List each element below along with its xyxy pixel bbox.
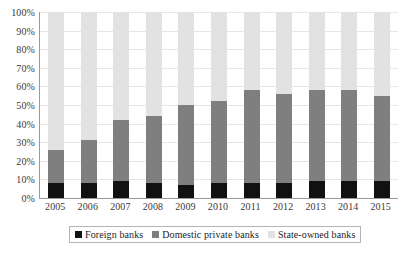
bar-segment <box>276 183 292 198</box>
bar-2011 <box>244 12 260 198</box>
bar-segment <box>341 12 357 90</box>
bar-segment <box>374 12 390 96</box>
legend-swatch-icon <box>75 231 82 238</box>
legend-item: State-owned banks <box>268 229 356 240</box>
bar-segment <box>146 183 162 198</box>
bar-segment <box>178 12 194 105</box>
bar-2007 <box>113 12 129 198</box>
chart-legend: Foreign banksDomestic private banksState… <box>69 226 361 243</box>
x-tick-label: 2005 <box>45 201 65 212</box>
bar-2010 <box>211 12 227 198</box>
bar-segment <box>211 101 227 183</box>
bar-segment <box>146 12 162 116</box>
bar-2009 <box>178 12 194 198</box>
x-tick-label: 2014 <box>338 201 358 212</box>
y-tick-label: 10% <box>16 174 35 185</box>
x-tick-label: 2011 <box>241 201 261 212</box>
y-tick-label: 60% <box>16 81 35 92</box>
bar-2008 <box>146 12 162 198</box>
x-tick-label: 2013 <box>305 201 325 212</box>
bar-segment <box>48 183 64 198</box>
bar-segment <box>81 140 97 183</box>
bar-segment <box>309 181 325 198</box>
bar-segment <box>341 90 357 181</box>
plot-area <box>39 12 398 199</box>
bar-segment <box>48 12 64 150</box>
x-tick-label: 2007 <box>110 201 130 212</box>
y-axis: 0%10%20%30%40%50%60%70%80%90%100% <box>0 12 35 199</box>
bar-segment <box>113 120 129 181</box>
bar-segment <box>178 185 194 198</box>
bar-segment <box>341 181 357 198</box>
bar-segment <box>276 94 292 183</box>
y-tick-label: 20% <box>16 155 35 166</box>
bar-segment <box>374 96 390 182</box>
y-tick-label: 0% <box>21 193 35 204</box>
bar-segment <box>211 183 227 198</box>
legend-label: State-owned banks <box>278 229 356 240</box>
x-tick-label: 2009 <box>175 201 195 212</box>
legend-label: Foreign banks <box>85 229 143 240</box>
bar-segment <box>211 12 227 101</box>
stacked-bar-chart: 0%10%20%30%40%50%60%70%80%90%100% 200520… <box>0 0 414 256</box>
bar-segment <box>48 150 64 183</box>
y-tick-label: 30% <box>16 137 35 148</box>
bar-segment <box>81 12 97 140</box>
bar-2005 <box>48 12 64 198</box>
x-tick-label: 2006 <box>78 201 98 212</box>
x-tick-label: 2015 <box>371 201 391 212</box>
bar-segment <box>374 181 390 198</box>
bar-2014 <box>341 12 357 198</box>
bar-segment <box>309 90 325 181</box>
bar-2006 <box>81 12 97 198</box>
legend-swatch-icon <box>152 231 159 238</box>
x-tick-label: 2010 <box>208 201 228 212</box>
bar-segment <box>81 183 97 198</box>
bar-segment <box>113 12 129 120</box>
y-tick-label: 100% <box>11 7 35 18</box>
x-tick-label: 2012 <box>273 201 293 212</box>
bar-segment <box>309 12 325 90</box>
legend-swatch-icon <box>268 231 275 238</box>
bar-2012 <box>276 12 292 198</box>
bar-segment <box>146 116 162 183</box>
y-tick-label: 40% <box>16 118 35 129</box>
bar-segment <box>276 12 292 94</box>
x-axis: 2005200620072008200920102011201220132014… <box>39 201 398 217</box>
x-tick-label: 2008 <box>143 201 163 212</box>
bar-segment <box>244 183 260 198</box>
bar-segment <box>178 105 194 185</box>
bar-2015 <box>374 12 390 198</box>
y-tick-label: 50% <box>16 100 35 111</box>
legend-label: Domestic private banks <box>162 229 259 240</box>
bar-2013 <box>309 12 325 198</box>
bar-segment <box>244 90 260 183</box>
legend-item: Domestic private banks <box>152 229 259 240</box>
y-tick-label: 80% <box>16 44 35 55</box>
legend-item: Foreign banks <box>75 229 143 240</box>
bar-segment <box>113 181 129 198</box>
bar-segment <box>244 12 260 90</box>
y-tick-label: 90% <box>16 25 35 36</box>
y-tick-label: 70% <box>16 62 35 73</box>
